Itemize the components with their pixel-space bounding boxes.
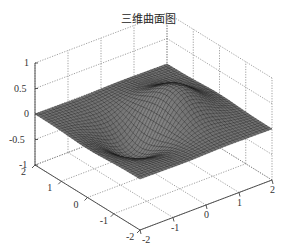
x-tick-label: 1 [237, 198, 242, 208]
z-tick-label: 0 [24, 109, 29, 119]
x-tick-label: 0 [204, 210, 209, 220]
z-tick-label: 1 [24, 58, 29, 68]
x-tick-label: 2 [270, 185, 275, 195]
plot-area [0, 0, 296, 244]
y-tick-label: 0 [74, 200, 79, 210]
y-tick-label: -1 [100, 216, 108, 226]
y-tick-label: 1 [47, 183, 52, 193]
x-tick-label: -2 [142, 235, 150, 244]
surface-chart: 三维曲面图 -2-1012-2-1012-1-0.500.51 [0, 0, 296, 244]
y-tick-label: -2 [126, 232, 134, 242]
x-tick-label: -1 [171, 223, 179, 233]
z-tick-label: -0.5 [9, 135, 25, 145]
z-tick-label: -1 [19, 160, 27, 170]
z-tick-label: 0.5 [14, 84, 27, 94]
